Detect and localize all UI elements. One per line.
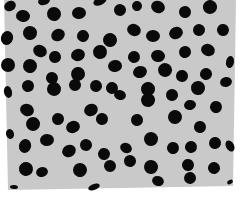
polka-dot-fabric xyxy=(0,0,243,198)
dot xyxy=(1,58,15,72)
fabric-photo xyxy=(0,0,243,198)
